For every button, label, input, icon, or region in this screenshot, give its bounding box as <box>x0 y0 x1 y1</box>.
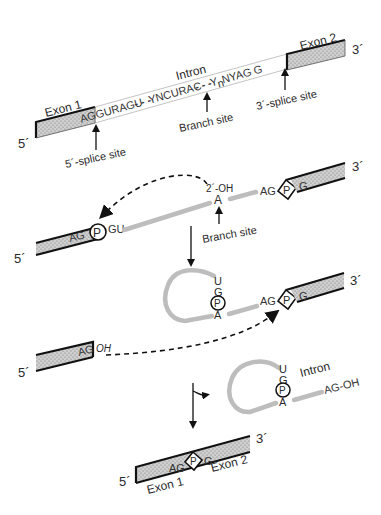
exon1-box-2 <box>36 227 98 255</box>
lariat-loop-2 <box>229 362 279 412</box>
ag-label-4: AG <box>169 462 185 474</box>
intron-line-2 <box>230 192 256 199</box>
three-prime-label: 3´ <box>352 42 364 57</box>
exon2-g-2: G <box>299 180 308 192</box>
svg-text:P: P <box>283 294 290 306</box>
ag-label-3: AG <box>260 295 276 307</box>
phosphate-label: P <box>93 226 101 240</box>
intron-line-1 <box>124 203 210 230</box>
five-prime-label-4: 5´ <box>119 474 131 489</box>
three-prime-label-2: 3´ <box>352 159 364 174</box>
branch-site-label: Branch site <box>178 111 234 134</box>
ag-oh-label: AG-OH <box>323 376 361 396</box>
three-splice-site-label: 3´-splice site <box>255 87 318 112</box>
phosphate-label-3: P <box>214 298 221 309</box>
ag-label-2: AG <box>260 185 276 197</box>
panel-products: U G P A Intron AG-OH AG P G 5´ 3´ Exon 1… <box>119 359 361 497</box>
a-label-4: A <box>279 396 287 408</box>
svg-text:P: P <box>190 456 197 467</box>
intron-line-4 <box>294 392 322 400</box>
lariat-loop-1 <box>165 270 214 321</box>
three-prime-label-3: 3´ <box>350 273 362 288</box>
oh-label-3: OH <box>96 343 112 354</box>
branch-site-label-2: Branch site <box>201 224 257 245</box>
a-label-3: A <box>214 309 222 321</box>
panel-pre-mrna: 5´ 3´ Exon 1 Exon 2 Intron AG GURAGU - -… <box>18 30 364 170</box>
branch-a-label: A <box>214 193 222 207</box>
exon2-g-3: G <box>299 290 308 302</box>
panel-first-step: 5´ AG P GU 2´-OH A AG P G 3´ Branch site <box>14 159 364 266</box>
release-arrow-icon <box>193 391 206 395</box>
intron-label-4: Intron <box>298 359 331 380</box>
five-prime-label-3: 5´ <box>18 365 30 380</box>
five-prime-label-2: 5´ <box>14 251 26 266</box>
intron-line-3 <box>229 306 257 314</box>
phosphate-label-4: P <box>279 385 286 396</box>
three-prime-label-4: 3´ <box>256 431 268 446</box>
svg-text:P: P <box>283 184 290 196</box>
splicing-diagram: 5´ 3´ Exon 1 Exon 2 Intron AG GURAGU - -… <box>0 0 381 515</box>
five-prime-label: 5´ <box>18 136 30 151</box>
exon2-box-2 <box>286 163 345 192</box>
